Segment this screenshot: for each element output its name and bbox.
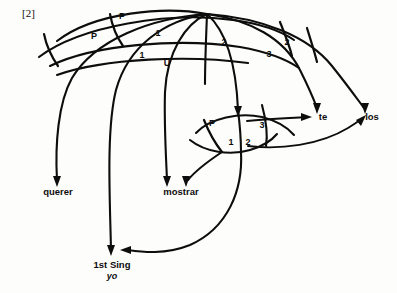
arrowhead-icon-first-sing-curve <box>120 246 131 254</box>
relation-label-upper-p-right: P <box>119 11 125 21</box>
terminal-label-te: te <box>319 111 327 122</box>
terminal-label-yo: yo <box>106 271 118 281</box>
lower-arc-to-mostrar-right <box>188 152 222 180</box>
figure-container: [2] P P 1 1 U 2 2 3 P 1 2 3 querer mostr… <box>0 0 397 293</box>
relation-label-lower-one: 1 <box>228 137 233 147</box>
terminal-label-mostrar: mostrar <box>163 186 199 197</box>
relation-label-upper-two-right: 2 <box>284 37 289 47</box>
relation-label-lower-two: 2 <box>245 137 250 147</box>
arrowhead-icon-te-horizontal <box>301 113 312 121</box>
meridian-arc-to-first-sing <box>109 14 207 250</box>
upper-dome-latitude-arc-3 <box>50 43 299 68</box>
relation-label-upper-two-mid: 2 <box>221 37 226 47</box>
arrowhead-icon-first-sing-vertical <box>107 245 115 256</box>
relational-network-diagram: [2] P P 1 1 U 2 2 3 P 1 2 3 querer mostr… <box>0 0 397 293</box>
relation-label-upper-p-left: P <box>91 31 97 41</box>
terminal-label-first-sing: 1st Sing <box>94 259 131 270</box>
meridian-arc-to-querer <box>56 14 207 180</box>
relation-label-upper-u: U <box>164 58 171 68</box>
relation-label-lower-p: P <box>209 118 215 128</box>
lower-arc-to-te <box>247 117 306 121</box>
relation-label-lower-three: 3 <box>259 120 264 130</box>
relation-label-upper-one-right: 1 <box>155 28 160 38</box>
relation-label-upper-one-left: 1 <box>139 50 144 60</box>
example-number: [2] <box>22 7 35 19</box>
relation-label-upper-three: 3 <box>266 49 271 59</box>
meridian-arc-to-mostrar-left <box>165 14 207 180</box>
meridian-arc-center <box>205 14 207 84</box>
terminal-label-querer: querer <box>43 186 73 197</box>
terminal-label-los: los <box>365 111 379 122</box>
lower-arc-to-first-sing <box>128 152 241 252</box>
